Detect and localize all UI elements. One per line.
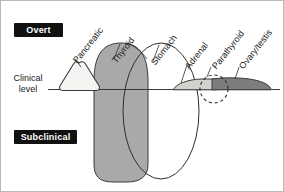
clinical-level-label-line2: level: [7, 84, 49, 95]
ovary-testis-shape: [212, 78, 271, 90]
zone-badge-overt: Overt: [14, 23, 63, 37]
leader-line-ovary-testis: [235, 67, 239, 79]
adrenal-shape: [173, 79, 217, 90]
clinical-level-label-line1: Clinical: [7, 73, 49, 84]
pancreatic-shape: [59, 62, 99, 91]
zone-badge-subclinical: Subclinical: [14, 130, 77, 144]
figure-container: Overt Subclinical Clinical level Pancrea…: [0, 0, 284, 192]
clinical-level-label: Clinical level: [7, 73, 49, 95]
thyroid-shape: [94, 43, 148, 182]
